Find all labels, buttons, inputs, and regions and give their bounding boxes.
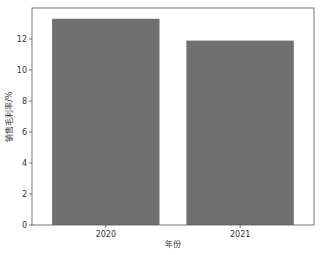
y-tick-label: 10 bbox=[17, 66, 27, 75]
y-ticks-group: 024681012 bbox=[17, 35, 32, 230]
y-tick-label: 4 bbox=[22, 159, 27, 168]
y-tick-label: 6 bbox=[22, 128, 27, 137]
x-tick-label: 2021 bbox=[230, 230, 250, 239]
x-tick-label: 2020 bbox=[96, 230, 116, 239]
bar-2020 bbox=[52, 19, 159, 225]
bar-2021 bbox=[186, 41, 293, 225]
y-axis-label: 销售毛利率/% bbox=[4, 91, 14, 142]
bars-group bbox=[52, 19, 294, 225]
y-tick-label: 8 bbox=[22, 97, 27, 106]
x-ticks-group: 20202021 bbox=[96, 225, 251, 239]
bar-chart: 024681012 20202021 年份 销售毛利率/% bbox=[0, 0, 324, 255]
y-tick-label: 2 bbox=[22, 190, 27, 199]
x-axis-label: 年份 bbox=[165, 239, 181, 249]
y-tick-label: 12 bbox=[17, 35, 27, 44]
y-tick-label: 0 bbox=[22, 221, 27, 230]
